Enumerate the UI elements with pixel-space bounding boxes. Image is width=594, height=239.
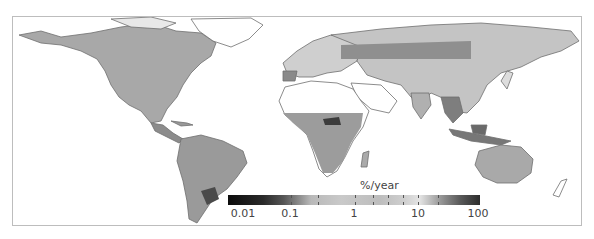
colorbar-label: %/year xyxy=(360,179,399,192)
colorbar-ticks: 0.01 0.1 1 10 100 xyxy=(0,207,594,221)
tick-label: 0.1 xyxy=(281,207,299,220)
north-america xyxy=(19,23,216,123)
central-america xyxy=(151,123,183,143)
sub-saharan-band xyxy=(283,113,363,173)
southeast-asia xyxy=(441,97,463,123)
tick-label: 0.01 xyxy=(231,207,256,220)
tick-label: 10 xyxy=(411,207,425,220)
india xyxy=(411,93,431,119)
tick-label: 1 xyxy=(351,207,358,220)
australia xyxy=(475,145,533,183)
colorbar xyxy=(228,195,480,205)
tick-label: 100 xyxy=(468,207,489,220)
